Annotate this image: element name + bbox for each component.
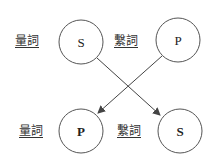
node-top-s-label: S <box>77 35 84 50</box>
arrow-p-to-p <box>98 56 162 113</box>
node-bottom-s-label: S <box>176 124 183 139</box>
label-quantifier-top: 量詞 <box>15 34 39 48</box>
node-bottom-p-label: P <box>77 124 85 139</box>
label-quantifier-bottom: 量詞 <box>19 124 43 138</box>
label-copula-bottom: 繫詞 <box>117 124 141 138</box>
label-copula-top: 繫詞 <box>114 34 138 48</box>
node-top-p-label: P <box>174 33 181 48</box>
